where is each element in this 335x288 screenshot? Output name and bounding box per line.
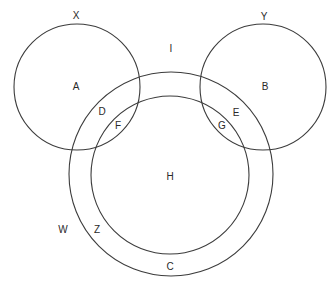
set-label-i: I [170,44,173,54]
region-label-c: C [166,262,173,272]
region-label-e: E [233,108,240,118]
venn-diagram [0,0,335,288]
region-label-d: D [98,107,105,117]
region-label-g: G [218,121,226,131]
region-label-h: H [166,172,173,182]
region-label-b: B [262,82,269,92]
set-label-y: Y [261,12,268,22]
set-label-z: Z [94,225,100,235]
region-label-f: F [115,121,121,131]
region-label-a: A [73,82,80,92]
set-label-x: X [73,11,80,21]
set-label-w: W [58,225,67,235]
